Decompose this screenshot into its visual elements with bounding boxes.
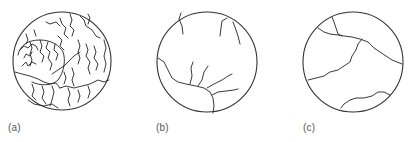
crack-pattern-sparse-diagram xyxy=(140,0,280,142)
field-circle xyxy=(303,12,403,112)
panel-b-label: (b) xyxy=(156,122,169,133)
panel-c-label: (c) xyxy=(303,122,315,133)
panel-a: (a) xyxy=(0,0,140,142)
panel-b: (b) xyxy=(140,0,280,142)
crack-pattern-few-diagram xyxy=(280,0,412,142)
panel-c: (c) xyxy=(280,0,412,142)
panel-a-label: (a) xyxy=(8,122,21,133)
field-circle xyxy=(157,12,257,112)
crack-pattern-dense-diagram xyxy=(0,0,140,142)
